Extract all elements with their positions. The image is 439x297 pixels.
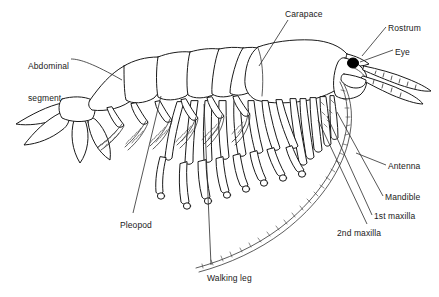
label-pleopod: Pleopod bbox=[120, 220, 152, 231]
leader-rostrum bbox=[362, 27, 386, 56]
eye-marker bbox=[348, 58, 359, 68]
label-first-maxilla: 1st maxilla bbox=[374, 211, 415, 222]
label-rostrum: Rostrum bbox=[388, 23, 421, 34]
label-carapace: Carapace bbox=[285, 9, 323, 20]
label-abdominal-segment-line1: Abdominal bbox=[28, 61, 69, 72]
label-walking-leg: Walking leg bbox=[207, 273, 252, 284]
label-mandible: Mandible bbox=[385, 192, 420, 203]
shrimp-anatomy-diagram: Abdominal segment Carapace Rostrum Eye A… bbox=[0, 0, 439, 297]
label-abdominal-segment: Abdominal segment bbox=[28, 40, 69, 124]
walking-legs-group bbox=[156, 100, 306, 209]
leader-eye bbox=[360, 50, 393, 62]
label-second-maxilla: 2nd maxilla bbox=[337, 228, 381, 239]
label-abdominal-segment-line2: segment bbox=[28, 93, 69, 104]
mouthparts-group bbox=[290, 96, 338, 165]
label-antenna: Antenna bbox=[388, 161, 420, 172]
leader-second-maxilla bbox=[318, 120, 367, 224]
label-eye: Eye bbox=[395, 47, 410, 58]
